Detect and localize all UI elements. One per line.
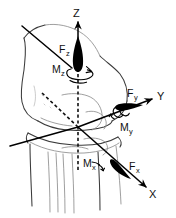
figure-background xyxy=(0,0,176,218)
axis-label-x: X xyxy=(149,188,157,200)
moment-label-mx-sub: x xyxy=(92,163,96,172)
force-label-fy-base: F xyxy=(127,87,133,99)
moment-label-mx-base: M xyxy=(83,157,92,169)
knee-force-diagram: Z Y X F z F y F x M z M y M x xyxy=(0,0,176,218)
moment-label-my-base: M xyxy=(120,121,129,133)
moment-label-my-sub: y xyxy=(129,127,133,136)
diagram-canvas: Z Y X F z F y F x M z M y M x xyxy=(0,0,176,218)
axis-label-z: Z xyxy=(73,7,80,19)
axis-label-y: Y xyxy=(157,90,165,102)
moment-label-mz-sub: z xyxy=(61,69,65,78)
force-label-fz-sub: z xyxy=(66,49,70,58)
force-label-fx-base: F xyxy=(129,160,135,172)
force-label-fz-base: F xyxy=(59,43,65,55)
moment-label-mz-base: M xyxy=(52,63,61,75)
force-label-fx-sub: x xyxy=(136,166,140,175)
force-label-fy-sub: y xyxy=(134,93,138,102)
